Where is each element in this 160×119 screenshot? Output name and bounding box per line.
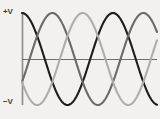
negative-voltage-label: −V [3,97,13,106]
three-phase-waveform-figure: +V −V [0,0,160,119]
waveform-plot [0,0,160,119]
positive-voltage-label: +V [3,7,13,16]
